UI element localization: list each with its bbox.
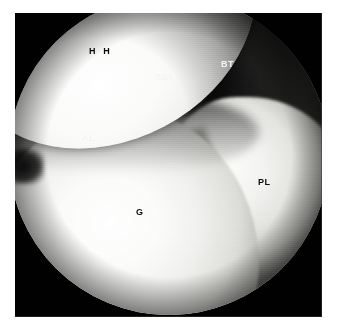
label-posterior-labrum: PL bbox=[258, 178, 271, 187]
label-anterior-labrum: AL bbox=[82, 134, 95, 143]
arthroscopy-figure: H H SGL BT AL PL G bbox=[0, 0, 341, 329]
label-humeral-head: H H bbox=[89, 47, 112, 56]
scope-vignette bbox=[15, 13, 322, 315]
label-glenoid: G bbox=[136, 208, 144, 217]
label-biceps-tendon: BT bbox=[221, 60, 234, 69]
photograph-plate: H H SGL BT AL PL G bbox=[15, 13, 322, 317]
label-superior-glenohumeral-ligament: SGL bbox=[155, 73, 175, 82]
arthroscope-field-of-view bbox=[15, 13, 322, 315]
